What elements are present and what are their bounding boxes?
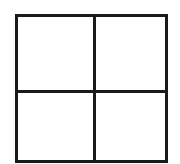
horizontal-divider [18,90,165,93]
grid-cell-bottom-left [18,93,93,160]
two-by-two-grid [15,14,168,163]
grid-cell-top-right [96,17,165,90]
vertical-divider [93,17,96,160]
grid-cell-top-left [18,17,93,90]
grid-cell-bottom-right [96,93,165,160]
